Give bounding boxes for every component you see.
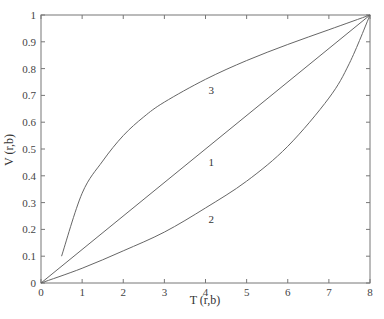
curve-1 <box>41 15 370 283</box>
x-tick-label: 2 <box>121 286 127 298</box>
x-tick-label: 3 <box>162 286 168 298</box>
x-axis-title: T (r,b) <box>190 293 221 307</box>
y-axis-title: V (r,b) <box>2 134 16 166</box>
curves: 123 <box>41 15 370 283</box>
y-tick-label: 0.5 <box>22 143 36 155</box>
y-tick-label: 1 <box>31 9 37 21</box>
y-tick-label: 0 <box>31 277 37 289</box>
line-chart: 01234567800.10.20.30.40.50.60.70.80.91 1… <box>0 0 384 319</box>
curve-label-1: 1 <box>209 156 215 168</box>
x-tick-label: 0 <box>38 286 44 298</box>
x-tick-label: 8 <box>367 286 373 298</box>
y-tick-label: 0.1 <box>22 250 36 262</box>
axes-frame: 01234567800.10.20.30.40.50.60.70.80.91 <box>22 9 373 298</box>
y-tick-label: 0.3 <box>22 197 36 209</box>
y-tick-label: 0.4 <box>22 170 36 182</box>
y-tick-label: 0.9 <box>22 36 36 48</box>
y-tick-label: 0.2 <box>22 223 36 235</box>
curve-label-3: 3 <box>209 84 215 96</box>
curve-3 <box>62 15 370 256</box>
curve-label-2: 2 <box>209 213 215 225</box>
x-tick-label: 7 <box>326 286 332 298</box>
y-tick-label: 0.8 <box>22 63 36 75</box>
x-tick-label: 5 <box>244 286 250 298</box>
y-tick-label: 0.7 <box>22 89 36 101</box>
x-tick-label: 6 <box>285 286 291 298</box>
y-tick-label: 0.6 <box>22 116 36 128</box>
x-tick-label: 1 <box>79 286 85 298</box>
